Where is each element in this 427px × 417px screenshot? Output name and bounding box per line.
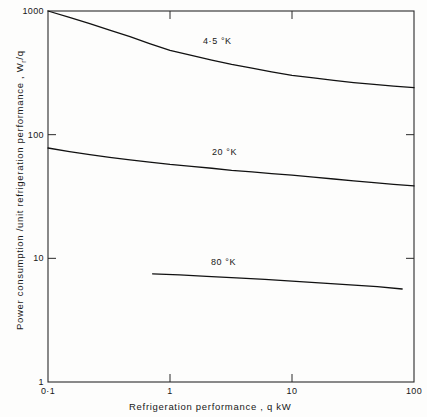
log-log-line-chart <box>0 0 427 417</box>
xtick-label-10: 10 <box>278 386 306 396</box>
figure-canvas: 1000 100 10 1 0·1 1 10 100 Refrigeration… <box>0 0 427 417</box>
curve-3 <box>153 274 403 289</box>
y-axis-title-main: Power consumption /unit refrigeration pe… <box>14 63 25 330</box>
xtick-label-0-1: 0·1 <box>34 386 62 396</box>
x-axis-title: Refrigeration performance , q kW <box>129 401 291 412</box>
y-axis-title: Power consumption /unit refrigeration pe… <box>14 50 27 330</box>
y-axis-title-subscript: r <box>20 60 27 63</box>
plot-frame <box>48 11 414 382</box>
xtick-label-100: 100 <box>400 386 427 396</box>
tick-marks <box>48 11 414 382</box>
curve-1 <box>48 11 414 88</box>
curve-label-80K: 80 °K <box>211 257 236 267</box>
curve-label-20K: 20 °K <box>212 147 237 157</box>
curve-label-4-5K: 4·5 °K <box>203 36 232 46</box>
ytick-label-1000: 1000 <box>18 6 44 16</box>
y-axis-title-tail: /q <box>14 50 25 59</box>
xtick-label-1: 1 <box>156 386 184 396</box>
